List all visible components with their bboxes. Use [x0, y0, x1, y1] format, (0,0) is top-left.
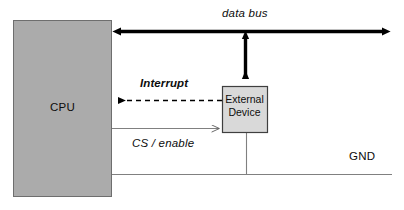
external-device-block-label: External Device	[221, 93, 268, 120]
cs-enable-label: CS / enable	[132, 138, 194, 150]
external-device-label-line1: External	[221, 93, 268, 106]
data-bus-label: data bus	[222, 8, 268, 20]
external-device-label-line2: Device	[221, 106, 268, 119]
ground-label: GND	[349, 151, 375, 163]
diagram-canvas: CPU External Device data bus Interrupt C…	[0, 0, 404, 210]
interrupt-label: Interrupt	[140, 78, 188, 90]
cpu-block-label: CPU	[13, 102, 112, 114]
